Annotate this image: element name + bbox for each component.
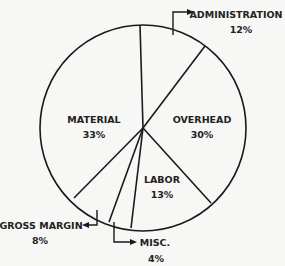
pct-gross-margin: 8%: [32, 235, 49, 246]
label-administration: ADMINISTRATION: [189, 9, 282, 20]
label-gross-margin: GROSS MARGIN: [0, 220, 83, 231]
pie-chart: ADMINISTRATION 12% OVERHEAD 30% MATERIAL…: [0, 0, 285, 266]
arrow-icon: [130, 239, 137, 245]
pct-material: 33%: [83, 129, 106, 140]
label-misc: MISC.: [140, 237, 170, 248]
label-labor: LABOR: [144, 174, 181, 185]
arrow-icon: [82, 222, 89, 228]
pct-overhead: 30%: [191, 129, 214, 140]
misc-callout-line: [114, 222, 130, 242]
pct-administration: 12%: [230, 24, 253, 35]
label-overhead: OVERHEAD: [173, 114, 232, 125]
pct-misc: 4%: [148, 253, 165, 264]
divider-material-admin: [140, 25, 143, 128]
pct-labor: 13%: [151, 189, 174, 200]
label-material: MATERIAL: [67, 114, 120, 125]
